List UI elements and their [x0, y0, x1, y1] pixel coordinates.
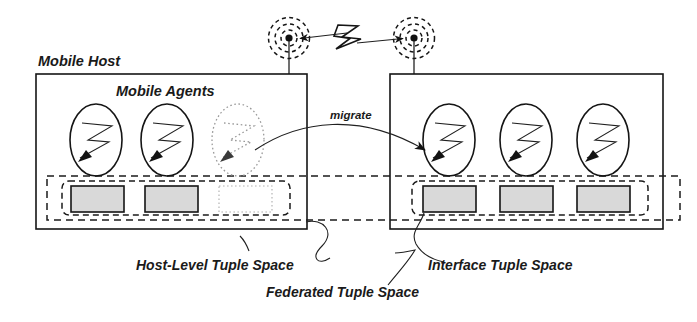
federated-leader-line-2 — [388, 250, 415, 285]
agent-6 — [577, 104, 629, 176]
agent-2 — [141, 104, 193, 176]
tuple-box-6 — [577, 186, 630, 212]
tuple-box-3 — [219, 186, 272, 212]
host-level-tuple-space-label: Host-Level Tuple Space — [136, 257, 294, 273]
federated-tuple-space-label: Federated Tuple Space — [266, 284, 419, 300]
antenna-right — [394, 18, 435, 75]
tuple-box-2 — [145, 186, 198, 212]
interface-tuple-space-label: Interface Tuple Space — [428, 257, 573, 273]
tuple-box-5 — [500, 186, 553, 212]
diagram-svg: Mobile Host Mobile Agents migrate Host-L… — [0, 0, 697, 322]
migrate-label: migrate — [330, 109, 372, 121]
host-level-leader-line — [240, 236, 249, 251]
agent-1 — [70, 104, 122, 176]
migrate-arrow — [255, 124, 425, 150]
agent-3 — [212, 104, 264, 176]
federated-leader-line — [306, 221, 330, 261]
mobile-host-label: Mobile Host — [38, 53, 121, 69]
mobile-agents-label: Mobile Agents — [116, 83, 215, 99]
antenna-left — [269, 18, 310, 75]
agent-5 — [500, 104, 552, 176]
diagram-canvas: Mobile Host Mobile Agents migrate Host-L… — [0, 0, 697, 322]
tuple-box-4 — [423, 186, 476, 212]
wireless-link — [300, 25, 403, 49]
tuple-box-1 — [71, 186, 124, 212]
lightning-bolt-icon — [334, 25, 361, 49]
agent-4 — [423, 104, 475, 176]
